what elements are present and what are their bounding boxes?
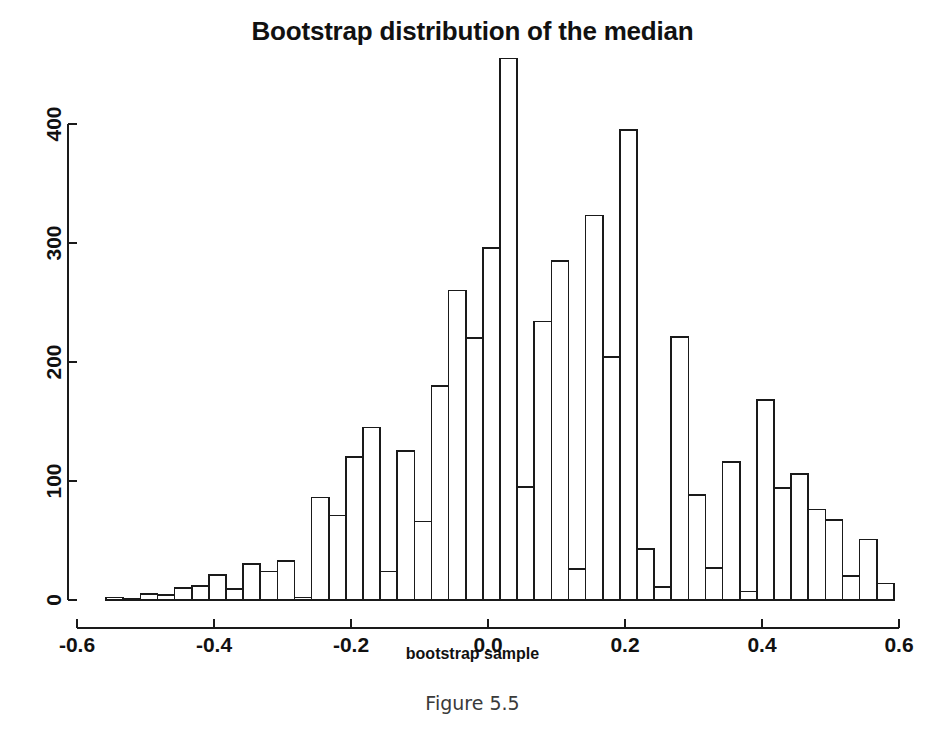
histogram-bar	[740, 592, 757, 600]
y-axis-tick-label: 400	[42, 106, 65, 141]
histogram-bars	[106, 59, 894, 600]
histogram-bar	[140, 594, 157, 600]
histogram-bar	[705, 568, 722, 600]
histogram-bar	[380, 571, 397, 600]
histogram-bar	[551, 261, 568, 600]
histogram-bar	[877, 583, 894, 600]
histogram-bar	[243, 564, 260, 600]
histogram-plot: 0100200300400 -0.6-0.4-0.20.00.20.40.6	[0, 0, 945, 740]
y-axis-tick-label: 200	[42, 344, 65, 379]
figure-caption: Figure 5.5	[0, 692, 945, 714]
x-axis-label: bootstrap sample	[0, 645, 945, 663]
y-axis-tick-label: 100	[42, 463, 65, 498]
histogram-bar	[620, 130, 637, 600]
histogram-bar	[397, 451, 414, 600]
y-axis-tick-label: 300	[42, 225, 65, 260]
histogram-bar	[723, 462, 740, 600]
y-axis-tick-label: 0	[42, 594, 65, 606]
histogram-bar	[534, 322, 551, 600]
histogram-bar	[568, 569, 585, 600]
histogram-bar	[431, 386, 448, 600]
histogram-bar	[774, 488, 791, 600]
histogram-bar	[842, 576, 859, 600]
histogram-bar	[671, 337, 688, 600]
histogram-bar	[260, 571, 277, 600]
figure-container: Bootstrap distribution of the median 010…	[0, 0, 945, 740]
histogram-bar	[346, 457, 363, 600]
histogram-bar	[226, 589, 243, 600]
histogram-bar	[654, 587, 671, 600]
histogram-bar	[414, 521, 431, 600]
histogram-bar	[603, 357, 620, 600]
histogram-bar	[209, 575, 226, 600]
histogram-bar	[688, 495, 705, 600]
y-axis: 0100200300400	[42, 106, 77, 605]
histogram-bar	[808, 510, 825, 600]
histogram-bar	[449, 291, 466, 600]
histogram-bar	[825, 520, 842, 600]
histogram-bar	[757, 400, 774, 600]
histogram-bar	[329, 516, 346, 600]
histogram-bar	[363, 427, 380, 600]
histogram-bar	[860, 539, 877, 600]
histogram-bar	[175, 588, 192, 600]
histogram-bar	[637, 549, 654, 600]
histogram-bar	[192, 586, 209, 600]
histogram-bar	[466, 338, 483, 600]
histogram-bar	[517, 487, 534, 600]
histogram-bar	[500, 59, 517, 600]
histogram-bar	[586, 216, 603, 600]
histogram-bar	[483, 248, 500, 600]
histogram-bar	[791, 474, 808, 600]
histogram-bar	[312, 498, 329, 600]
histogram-bar	[277, 561, 294, 600]
